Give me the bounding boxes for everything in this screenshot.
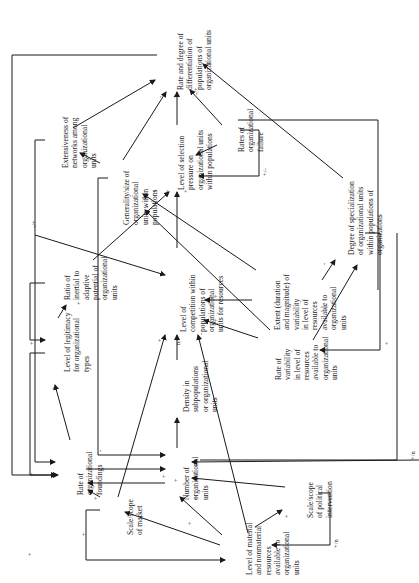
edge-sign: + [186, 521, 193, 525]
node-label: Extent (duration and magnitude) of varia… [273, 274, 348, 330]
node-label: Level of selection pressure on organizat… [177, 130, 215, 190]
node-label: Ratio of inertial to adaptive potential … [63, 257, 119, 300]
node-label: Generality/size of organizational units … [122, 171, 160, 225]
edge-sign: + [28, 341, 35, 345]
edge-sign: + [88, 480, 95, 484]
node-label: Rates of organizational failure [237, 109, 265, 152]
node-extent-variability: Extent (duration and magnitude) of varia… [254, 274, 357, 330]
edge-sign: + [50, 386, 57, 390]
node-label: Scale/scope of political intervention [306, 481, 334, 518]
node-resources-level: Level of material and nonmaterial resour… [226, 523, 311, 575]
edge-sign: +/- [322, 304, 329, 312]
edge-sign: + [383, 341, 390, 345]
node-label: Degree of specialization of organization… [347, 181, 385, 255]
node-label: Rate of organizational foundings [76, 452, 104, 495]
node-label: Level of material and nonmaterial resour… [245, 523, 301, 575]
edge-sign: - [197, 333, 204, 335]
edge-sign: + [28, 472, 35, 476]
edge-sign: n/+ [174, 336, 181, 345]
edge-sign: +/- [261, 168, 268, 176]
edge-sign: + [160, 474, 167, 478]
edge-sign: +/n [409, 451, 416, 460]
node-selection-pressure: Level of selection pressure on organizat… [158, 130, 224, 190]
edge-sign: - [96, 450, 103, 452]
node-inertia-ratio: Ratio of inertial to adaptive potential … [44, 257, 129, 300]
edge-sign: + [212, 294, 219, 298]
edge-sign: + [283, 514, 290, 518]
edge-sign: + [171, 94, 178, 98]
node-density: Density in subpopulations or organizatio… [163, 360, 229, 412]
edge-sign: + [138, 514, 145, 518]
edge-sign: + [172, 478, 179, 482]
edge-sign: + [75, 301, 82, 305]
edge-sign: + [192, 496, 199, 500]
node-networks: Extensiveness of networks among organiza… [42, 117, 108, 168]
edge-sign: + [197, 148, 204, 152]
node-specialization: Degree of specialization of organization… [328, 181, 394, 255]
edge-sign: + [92, 496, 99, 500]
node-label: Rate of variability in level of resource… [274, 337, 340, 380]
edge-sign: - [143, 206, 150, 208]
edge-sign: + [151, 189, 158, 193]
edge-sign: -/+ [192, 87, 199, 95]
edge-sign: +/n [332, 539, 339, 548]
edge-sign: - [150, 80, 157, 82]
edge-sign: + [26, 552, 33, 556]
edge-sign: -/+ [30, 220, 37, 228]
node-label: Number of organizational units [182, 457, 210, 500]
node-foundings: Rate of organizational foundings [57, 452, 113, 495]
edge-sign: - [82, 150, 89, 152]
node-rate-variability: Rate of variability in level of resource… [255, 337, 349, 380]
edge-sign: + [212, 318, 219, 322]
edge-sign: + [80, 532, 87, 536]
node-label: Level of legitimacy for organizational t… [63, 313, 91, 372]
node-label: Level of competition within populations … [179, 274, 226, 332]
node-label: Extensiveness of networks among organiza… [61, 117, 99, 168]
edge-sign: - [320, 263, 327, 265]
node-organizational-failure: Rates of organizational failure [218, 109, 274, 152]
edge-sign: + [156, 338, 163, 342]
node-label: Density in subpopulations or organizatio… [182, 360, 220, 412]
node-market-scale: Scale/scope of market [107, 499, 154, 535]
edge-sign: + [182, 189, 189, 193]
edge-sign: + [164, 189, 171, 193]
node-political-intervention: Scale/scope of political intervention [287, 481, 343, 518]
edge-sign: - [156, 96, 163, 98]
node-legitimacy: Level of legitimacy for organizational t… [44, 313, 100, 372]
edge-sign: + [206, 61, 213, 65]
causal-diagram: Rate and degree of differentiation of po… [0, 0, 419, 583]
node-competition: Level of competition within populations … [160, 274, 235, 332]
